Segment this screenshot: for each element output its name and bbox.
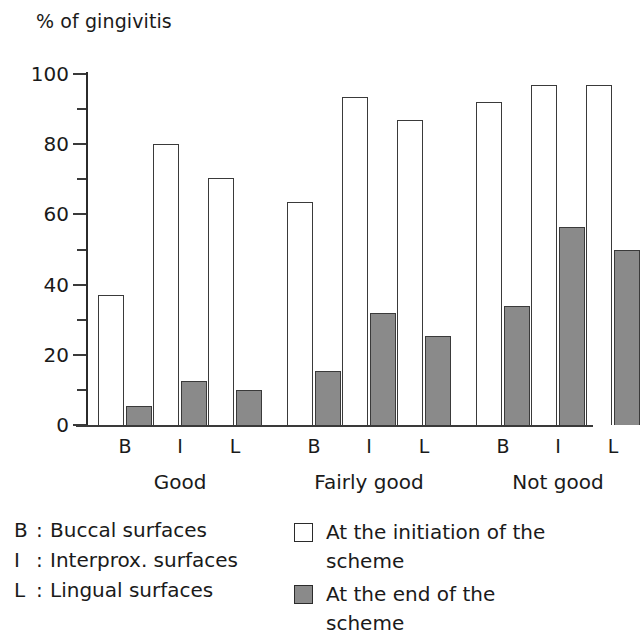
bar-end: [126, 406, 152, 425]
bar-end: [181, 381, 207, 425]
y-tick-major: [73, 284, 86, 286]
x-sub-label: I: [555, 435, 561, 457]
y-tick-major: [73, 424, 86, 426]
legend-abbreviation-key: B: [14, 518, 36, 542]
legend: B:Buccal surfacesI:Interprox. surfacesL:…: [0, 518, 605, 611]
y-tick-minor: [77, 108, 86, 110]
legend-abbreviation-row: B:Buccal surfaces: [14, 518, 238, 548]
bar-end: [315, 371, 341, 425]
bar-end: [425, 336, 451, 426]
plot-area: 020406080100: [86, 74, 593, 425]
x-sub-label: I: [177, 435, 183, 457]
y-axis-title: % of gingivitis: [36, 10, 172, 32]
bar-initiation: [208, 178, 234, 425]
y-tick-major: [73, 73, 86, 75]
bar-initiation: [531, 85, 557, 425]
x-sub-label: L: [608, 435, 619, 457]
bar-end: [370, 313, 396, 425]
bar-initiation: [287, 202, 313, 425]
bar-end: [614, 250, 640, 426]
y-tick-label: 40: [44, 273, 69, 297]
legend-colon: :: [36, 578, 50, 602]
y-tick-major: [73, 143, 86, 145]
bar-initiation: [397, 120, 423, 425]
legend-abbreviation-key: L: [14, 578, 36, 602]
legend-series-entry: At the end of the scheme: [294, 580, 576, 634]
bar-initiation: [153, 144, 179, 425]
x-sub-label: I: [366, 435, 372, 457]
legend-colon: :: [36, 518, 50, 542]
legend-abbreviations: B:Buccal surfacesI:Interprox. surfacesL:…: [14, 518, 238, 608]
y-tick-minor: [77, 389, 86, 391]
x-group-label: Good: [154, 470, 207, 494]
open-square-icon: [294, 523, 313, 542]
bar-initiation: [342, 97, 368, 425]
y-tick-label: 100: [31, 62, 69, 86]
legend-abbreviation-text: Lingual surfaces: [50, 578, 213, 602]
bar-end: [504, 306, 530, 425]
legend-series-label: At the end of the scheme: [326, 580, 576, 634]
y-tick-label: 0: [56, 413, 69, 437]
x-axis-line: [76, 425, 593, 427]
x-sub-label: L: [230, 435, 241, 457]
x-sub-label: B: [496, 435, 509, 457]
legend-abbreviation-key: I: [14, 548, 36, 572]
y-tick-major: [73, 213, 86, 215]
bar-initiation: [586, 85, 612, 425]
x-group-label: Fairly good: [314, 470, 423, 494]
bar-end: [559, 227, 585, 425]
x-sub-label: B: [118, 435, 131, 457]
filled-square-icon: [294, 585, 313, 604]
y-tick-minor: [77, 178, 86, 180]
y-tick-minor: [77, 249, 86, 251]
legend-series-label: At the initiation of the scheme: [326, 518, 576, 576]
y-tick-label: 80: [44, 132, 69, 156]
legend-series-entry: At the initiation of the scheme: [294, 518, 576, 576]
legend-colon: :: [36, 548, 50, 572]
legend-abbreviation-text: Buccal surfaces: [50, 518, 207, 542]
y-tick-minor: [77, 319, 86, 321]
legend-abbreviation-row: I:Interprox. surfaces: [14, 548, 238, 578]
y-axis-line: [86, 72, 88, 425]
legend-abbreviation-text: Interprox. surfaces: [50, 548, 238, 572]
y-tick-label: 60: [44, 202, 69, 226]
bar-initiation: [98, 295, 124, 425]
legend-abbreviation-row: L:Lingual surfaces: [14, 578, 238, 608]
x-sub-label: B: [307, 435, 320, 457]
bar-end: [236, 390, 262, 425]
y-tick-label: 20: [44, 343, 69, 367]
x-group-label: Not good: [512, 470, 603, 494]
bar-initiation: [476, 102, 502, 425]
x-sub-label: L: [419, 435, 430, 457]
y-tick-major: [73, 354, 86, 356]
legend-series: At the initiation of the schemeAt the en…: [294, 518, 576, 634]
